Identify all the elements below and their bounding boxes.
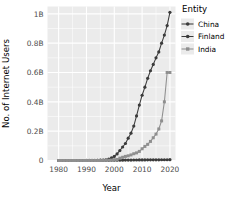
data-point [68,159,71,162]
legend-title: Entity [182,4,207,14]
data-point [124,142,127,145]
data-point [168,71,171,74]
data-point [149,140,152,143]
data-point [138,150,141,153]
data-point [152,136,155,139]
data-point [118,149,121,152]
data-point [115,152,118,155]
data-point [121,156,124,159]
data-point [113,158,116,161]
legend-item-finland[interactable]: Finland [181,31,225,42]
data-point [129,132,132,135]
x-axis-title: Year [101,183,121,193]
data-point [96,159,99,162]
data-point [74,159,77,162]
legend-marker [186,35,190,39]
data-point [163,100,166,103]
y-tick-label: 0.2B [27,127,44,136]
internet-users-line-chart: 19801990200020102020 00.2B0.4B0.6B0.8B1B… [0,0,237,198]
data-point [107,159,110,162]
data-point [129,158,132,161]
data-point [160,158,163,161]
data-point [152,63,155,66]
data-point [132,124,135,127]
data-point [157,127,160,130]
data-point [135,151,138,154]
legend-item-china[interactable]: China [181,19,219,30]
data-point [160,42,163,45]
data-point [63,159,66,162]
y-tick-label: 0 [39,156,44,165]
y-tick-label: 0.4B [27,98,44,107]
data-point [138,158,141,161]
data-point [141,94,144,97]
y-axis-title: No. of Internet Users [1,39,11,128]
data-point [146,158,149,161]
data-point [65,159,68,162]
data-point [110,159,113,162]
data-point [146,77,149,80]
x-tick-label: 1990 [77,165,96,174]
data-point [104,159,107,162]
data-point [163,34,166,37]
data-point [99,159,102,162]
data-point [113,155,116,158]
data-point [124,155,127,158]
chart-canvas: 19801990200020102020 00.2B0.4B0.6B0.8B1B… [0,0,237,198]
data-point [141,158,144,161]
x-tick-label: 1980 [49,165,68,174]
legend-label: India [198,45,216,54]
data-point [168,158,171,161]
data-point [79,159,82,162]
data-point [155,133,158,136]
y-tick-label: 0.8B [27,39,44,48]
legend-item-india[interactable]: India [181,44,216,55]
data-point [121,145,124,148]
plot-panel [48,7,176,161]
data-point [166,158,169,161]
data-point [102,159,105,162]
data-point [135,158,138,161]
data-point [152,158,155,161]
data-point [141,147,144,150]
legend-marker [186,22,190,26]
data-point [127,137,130,140]
data-point [93,159,96,162]
data-point [168,11,171,14]
data-point [132,158,135,161]
data-point [127,154,130,157]
data-point [157,158,160,161]
data-point [143,86,146,89]
data-point [85,159,88,162]
data-point [146,143,149,146]
data-point [127,158,130,161]
data-point [118,157,121,160]
data-point [166,24,169,27]
data-point [154,158,157,161]
data-point [82,159,85,162]
data-point [60,159,63,162]
data-point [71,159,74,162]
legend-marker [186,47,189,50]
data-point [124,159,127,162]
data-point [129,153,132,156]
data-point [77,159,80,162]
data-point [57,159,60,162]
data-point [138,103,141,106]
x-tick-label: 2000 [105,165,124,174]
data-point [157,50,160,53]
data-point [116,158,119,161]
data-point [149,69,152,72]
data-point [132,152,135,155]
data-point [91,159,94,162]
y-tick-label: 1B [34,10,44,19]
data-point [163,158,166,161]
x-tick-label: 2010 [133,165,152,174]
y-tick-label: 0.6B [27,68,44,77]
data-point [160,119,163,122]
legend-label: China [198,20,219,29]
x-tick-label: 2020 [161,165,180,174]
data-point [143,145,146,148]
legend-label: Finland [198,32,225,41]
data-point [154,56,157,59]
